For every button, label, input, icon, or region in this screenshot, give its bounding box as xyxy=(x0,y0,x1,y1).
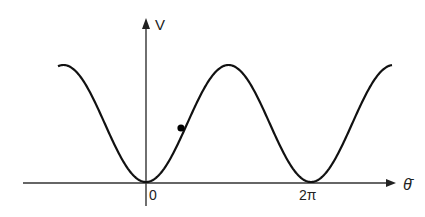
ball xyxy=(177,124,184,131)
potential-diagram: V θ̄ 0 2π xyxy=(0,0,425,217)
potential-curve xyxy=(58,65,392,182)
x-axis-arrow-icon xyxy=(386,179,396,187)
x-tick-0: 0 xyxy=(149,187,157,203)
x-axis-label: θ̄ xyxy=(403,176,415,193)
y-axis-arrow-icon xyxy=(142,18,150,29)
x-tick-2pi: 2π xyxy=(299,187,317,203)
y-axis-label: V xyxy=(155,16,165,33)
